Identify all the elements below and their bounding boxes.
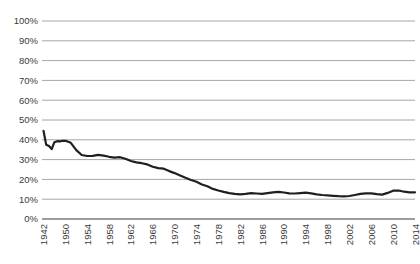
x-axis-tick-label: 2010 xyxy=(388,224,399,245)
x-axis-tick-label: 1986 xyxy=(257,224,268,245)
y-axis-tick-label: 40% xyxy=(19,134,39,145)
x-axis-tick-label: 1990 xyxy=(278,224,289,245)
x-axis-tick-label: 1958 xyxy=(104,224,115,245)
x-axis-tick-label: 1978 xyxy=(213,224,224,245)
x-axis-tick-label: 1942 xyxy=(38,224,49,245)
y-axis-tick-label: 60% xyxy=(19,95,39,106)
y-axis-tick-label: 30% xyxy=(19,154,39,165)
x-axis-tick-label: 1970 xyxy=(169,224,180,245)
x-axis-tick-label: 1982 xyxy=(235,224,246,245)
chart-figure: 100%90%80%70%60%50%40%30%20%10%0%1942195… xyxy=(0,0,420,264)
x-axis-tick-label: 1966 xyxy=(147,224,158,245)
x-axis-tick-label: 1954 xyxy=(82,224,93,245)
x-axis-tick-label: 1974 xyxy=(191,224,202,245)
y-axis-tick-label: 70% xyxy=(19,75,39,86)
line-chart: 100%90%80%70%60%50%40%30%20%10%0%1942195… xyxy=(0,0,420,264)
y-axis-tick-label: 100% xyxy=(14,15,39,26)
y-axis-tick-label: 10% xyxy=(19,194,39,205)
x-axis-tick-label: 2006 xyxy=(366,224,377,245)
y-axis-tick-label: 50% xyxy=(19,114,39,125)
x-axis-tick-label: 2002 xyxy=(344,224,355,245)
y-axis-tick-label: 80% xyxy=(19,55,39,66)
x-axis-tick-label: 1950 xyxy=(60,224,71,245)
data-line xyxy=(44,131,416,197)
x-axis-tick-label: 1962 xyxy=(125,224,136,245)
y-axis-tick-label: 90% xyxy=(19,35,39,46)
x-axis-tick-label: 2014 xyxy=(410,224,420,245)
y-axis-tick-label: 20% xyxy=(19,174,39,185)
y-axis-tick-label: 0% xyxy=(24,213,38,224)
x-axis-tick-label: 1998 xyxy=(322,224,333,245)
x-axis-tick-label: 1994 xyxy=(300,224,311,245)
